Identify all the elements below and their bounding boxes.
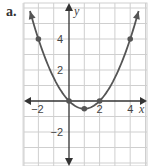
- x-tick-label: −2: [31, 103, 44, 115]
- curve-left-arrow-icon: [29, 11, 36, 20]
- x-axis-label: x: [138, 102, 145, 116]
- y-tick-label: −2: [50, 126, 63, 138]
- data-point: [82, 106, 88, 112]
- data-point: [66, 98, 72, 104]
- axes: [24, 3, 147, 166]
- curve-right-arrow-icon: [133, 11, 140, 20]
- y-axis-down-arrow-icon: [65, 158, 73, 166]
- x-axis-left-arrow-icon: [24, 97, 31, 105]
- grid-border: [24, 3, 147, 166]
- data-point: [127, 36, 133, 42]
- y-tick-label: 2: [57, 64, 63, 76]
- data-point: [36, 36, 42, 42]
- parabola-chart: −22442−2xy: [0, 0, 149, 166]
- y-axis-label: y: [73, 4, 80, 18]
- y-axis-up-arrow-icon: [65, 3, 73, 11]
- x-tick-label: 4: [127, 103, 133, 115]
- y-tick-label: 4: [57, 33, 63, 45]
- grid-lines: [23, 3, 147, 166]
- tick-labels: −22442−2xy: [31, 4, 145, 138]
- x-tick-label: 2: [97, 103, 103, 115]
